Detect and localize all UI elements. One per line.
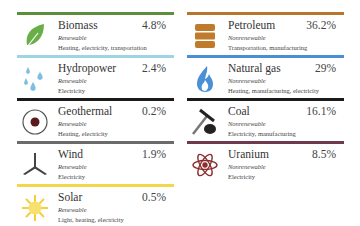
atom-icon [190,150,220,180]
wind-turbine-icon [20,150,50,180]
energy-name: Solar [58,191,82,203]
flame-icon [190,64,220,94]
energy-item-natural-gas: Natural gas 29% Nonrenewable Heating, ma… [187,55,344,98]
energy-uses: Electricity [228,173,255,180]
energy-percent: 0.5% [142,191,166,203]
energy-type: Renewable [58,120,87,127]
energy-name: Wind [58,148,83,160]
energy-type: Renewable [58,77,87,84]
energy-type: Nonrenewable [228,77,266,84]
energy-type: Nonrenewable [228,34,266,41]
energy-item-petroleum: Petroleum 36.2% Nonrenewable Transportat… [187,12,344,55]
energy-percent: 1.9% [142,148,166,160]
renewable-column: Biomass 4.8% Renewable Heating, electric… [17,12,174,226]
energy-item-wind: Wind 1.9% Renewable Electricity [17,141,174,184]
energy-percent: 36.2% [306,19,336,31]
energy-percent: 0.2% [142,105,166,117]
energy-percent: 4.8% [142,19,166,31]
energy-name: Uranium [228,148,269,160]
energy-name: Geothermal [58,105,112,117]
sun-icon [20,193,50,223]
energy-item-biomass: Biomass 4.8% Renewable Heating, electric… [17,12,174,55]
energy-name: Natural gas [228,62,281,74]
energy-name: Coal [228,105,250,117]
energy-name: Hydropower [58,62,116,74]
nonrenewable-column: Petroleum 36.2% Nonrenewable Transportat… [187,12,344,184]
energy-type: Renewable [58,34,87,41]
energy-percent: 16.1% [306,105,336,117]
energy-type: Renewable [58,163,87,170]
energy-name: Petroleum [228,19,275,31]
energy-uses: Electricity [58,173,85,180]
energy-percent: 8.5% [312,148,336,160]
energy-uses: Light, heating, electricity [58,216,124,223]
energy-uses: Transportation, manufacturing [228,44,307,51]
energy-type: Nonrenewable [228,163,266,170]
water-drops-icon [20,64,50,94]
energy-type: Nonrenewable [228,120,266,127]
oil-barrel-icon [190,21,220,51]
energy-item-uranium: Uranium 8.5% Nonrenewable Electricity [187,141,344,184]
energy-item-geothermal: Geothermal 0.2% Renewable Heating, elect… [17,98,174,141]
energy-item-hydropower: Hydropower 2.4% Renewable Electricity [17,55,174,98]
leaf-icon [20,21,50,51]
geothermal-icon [20,107,50,137]
energy-uses: Electricity [58,87,85,94]
coal-pickaxe-icon [190,107,220,137]
energy-uses: Heating, electricity [58,130,108,137]
energy-item-coal: Coal 16.1% Nonrenewable Electricity, man… [187,98,344,141]
energy-type: Renewable [58,206,87,213]
energy-uses: Heating, manufacturing, electricity [228,87,319,94]
energy-percent: 29% [315,62,336,74]
energy-name: Biomass [58,19,98,31]
energy-uses: Electricity, manufacturing [228,130,296,137]
energy-uses: Heating, electricity, transportation [58,44,147,51]
energy-percent: 2.4% [142,62,166,74]
energy-item-solar: Solar 0.5% Renewable Light, heating, ele… [17,184,174,226]
